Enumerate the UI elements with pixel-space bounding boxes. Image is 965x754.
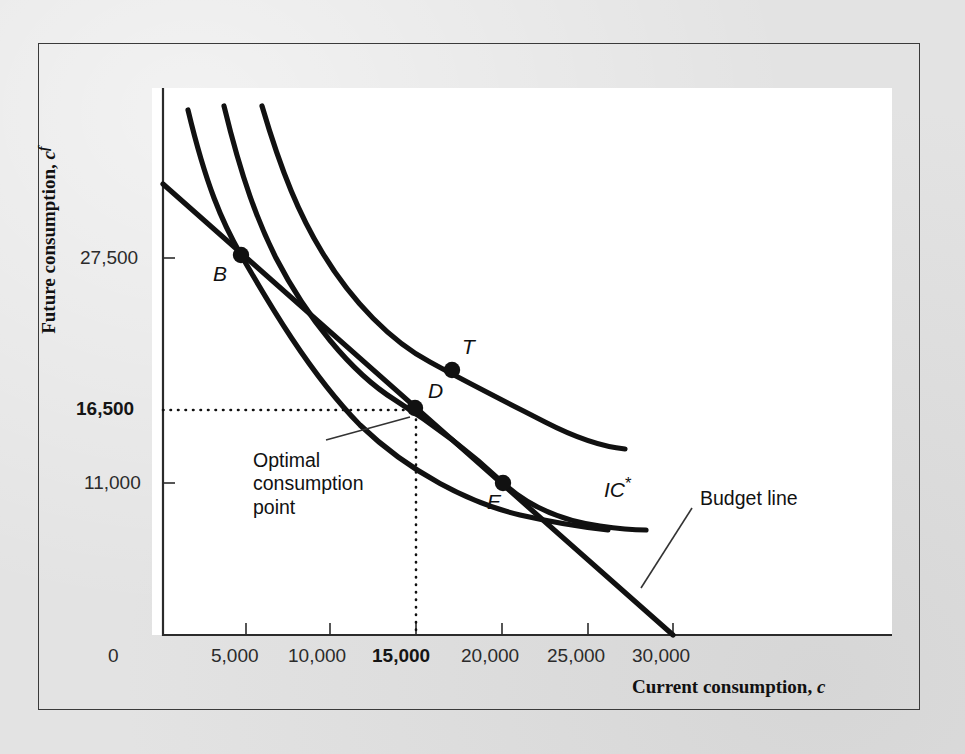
x-axis-title-text: Current consumption, <box>632 676 817 697</box>
data-point-D[interactable] <box>407 400 423 416</box>
y-axis-title-superscript: f <box>36 146 51 151</box>
data-point-B[interactable] <box>233 247 249 263</box>
curve-label-IC-superscript: * <box>625 474 632 493</box>
x-tick-label-15000: 15,000 <box>372 645 430 667</box>
point-label-B: B <box>213 262 227 286</box>
x-tick-label-20000: 20,000 <box>461 645 519 667</box>
annotation-budget-line: Budget line <box>700 487 798 510</box>
data-point-T[interactable] <box>444 362 460 378</box>
y-axis-title: Future consumption, cf <box>36 110 60 370</box>
figure-page: Future consumption, cf Current consumpti… <box>0 0 965 754</box>
plot-background <box>152 88 892 635</box>
chart-canvas <box>0 0 965 754</box>
x-tick-label-30000: 30,000 <box>632 645 690 667</box>
y-tick-label-16500: 16,500 <box>76 398 134 420</box>
x-axis-title-var: c <box>817 676 825 697</box>
y-tick-label-27500: 27,500 <box>80 247 138 269</box>
data-point-E[interactable] <box>495 475 511 491</box>
curve-label-IC-text: IC <box>604 478 625 501</box>
y-axis-title-text: Future consumption, <box>38 159 59 333</box>
x-axis-title: Current consumption, c <box>632 676 825 698</box>
y-axis-title-var: c <box>38 151 59 159</box>
annotation-optimal-consumption-point: Optimal consumption point <box>253 449 364 519</box>
x-tick-label-10000: 10,000 <box>288 645 346 667</box>
x-tick-label-5000: 5,000 <box>211 645 259 667</box>
point-label-D: D <box>428 379 443 403</box>
point-label-T: T <box>462 335 475 359</box>
y-tick-label-11000: 11,000 <box>84 472 141 494</box>
curve-label-IC-star: IC* <box>604 474 632 502</box>
x-tick-label-25000: 25,000 <box>547 645 605 667</box>
point-label-E: E <box>487 490 501 514</box>
x-tick-label-0: 0 <box>108 645 119 667</box>
